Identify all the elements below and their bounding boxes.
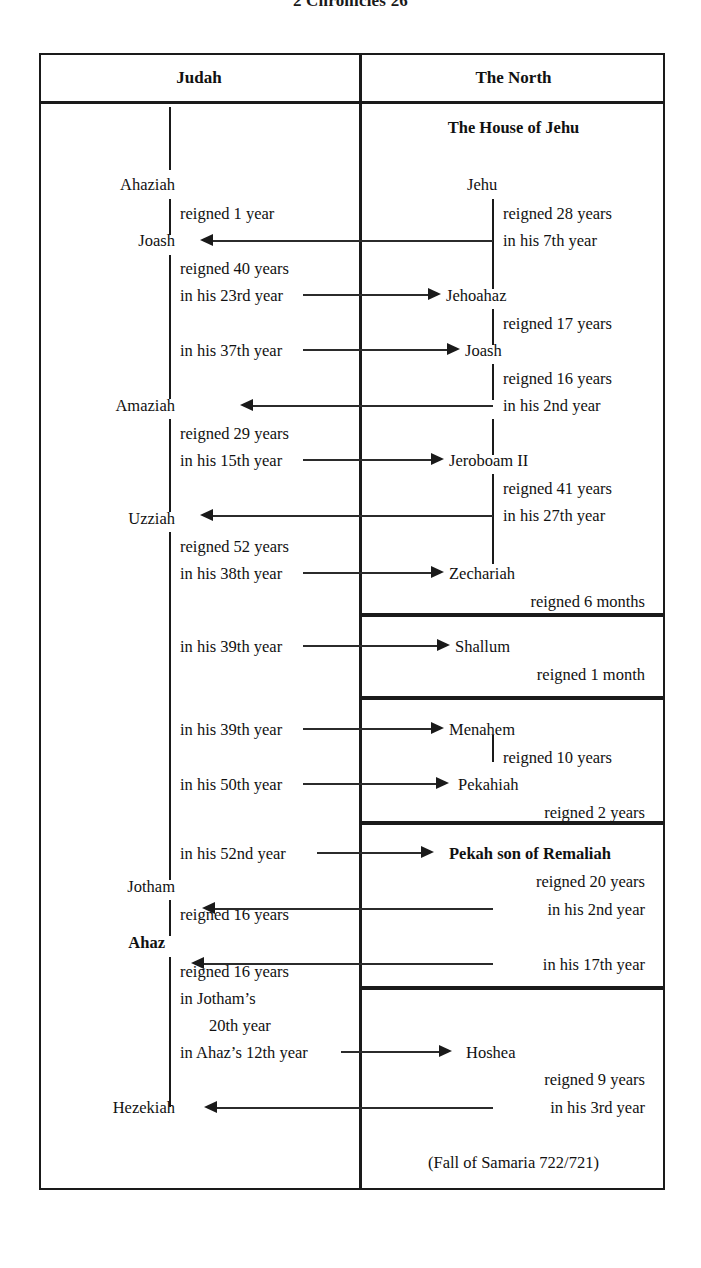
judah-uzziah-reign: reigned 52 years: [180, 537, 289, 556]
north-house-of-jehu-heading: The House of Jehu: [362, 118, 665, 137]
north-pekahiah-reign: reigned 2 years: [420, 803, 645, 822]
judah-king-joash: Joash: [55, 231, 175, 250]
connector-hoshea3-to-hezekiah: [217, 1107, 493, 1109]
fall-of-samaria-note: (Fall of Samaria 722/721): [362, 1153, 665, 1172]
judah-spine-jotham: [169, 900, 171, 936]
judah-uzziah-sync-38: in his 38th year: [180, 564, 282, 583]
connector-joash37-to-joash-north: [303, 349, 447, 351]
judah-king-amaziah: Amaziah: [35, 396, 175, 415]
arrowhead-left-uzziah: [200, 509, 213, 521]
north-joash-sync-2: in his 2nd year: [503, 396, 601, 415]
north-joash-reign: reigned 16 years: [503, 369, 612, 388]
north-section-separator-4: [359, 986, 665, 990]
judah-spine-ahaziah: [169, 199, 171, 235]
judah-ahaz-sync-12: in Ahaz’s 12th year: [180, 1043, 308, 1062]
judah-amaziah-reign: reigned 29 years: [180, 424, 289, 443]
arrowhead-right-joash-north: [447, 343, 460, 355]
arrowhead-left-hezekiah: [204, 1101, 217, 1113]
arrowhead-right-pekah: [421, 846, 434, 858]
judah-uzziah-sync-39a: in his 39th year: [180, 637, 282, 656]
north-section-separator-2: [359, 696, 665, 700]
north-section-separator-1: [359, 613, 665, 617]
arrowhead-right-hoshea: [439, 1045, 452, 1057]
north-king-jehoahaz: Jehoahaz: [446, 286, 506, 305]
north-king-joash: Joash: [465, 341, 502, 360]
connector-ahaz12-to-hoshea: [341, 1051, 439, 1053]
judah-ahaziah-reign: reigned 1 year: [180, 204, 274, 223]
connector-amaziah15-to-jeroboam: [303, 459, 431, 461]
judah-king-ahaziah: Ahaziah: [55, 175, 175, 194]
arrowhead-left-ahaz: [191, 957, 204, 969]
judah-king-ahaz: Ahaz: [55, 933, 165, 952]
judah-spine-joash: [169, 255, 171, 399]
north-king-jehu: Jehu: [467, 175, 497, 194]
arrowhead-left-joash: [200, 234, 213, 246]
north-spine-menahem: [492, 735, 494, 762]
column-header-north: The North: [362, 68, 665, 88]
north-spine-jehu: [492, 199, 494, 289]
north-king-pekah: Pekah son of Remaliah: [449, 844, 611, 863]
arrowhead-right-pekahiah: [436, 777, 449, 789]
north-king-jeroboam: Jeroboam II: [449, 451, 528, 470]
judah-uzziah-sync-39b: in his 39th year: [180, 720, 282, 739]
north-jehu-sync-7: in his 7th year: [503, 231, 597, 250]
north-pekah-reign: reigned 20 years: [420, 872, 645, 891]
arrowhead-left-jotham: [202, 902, 215, 914]
north-king-menahem: Menahem: [449, 720, 515, 739]
connector-uzziah50-to-pekahiah: [303, 783, 436, 785]
arrowhead-left-amaziah: [240, 399, 253, 411]
column-header-judah: Judah: [39, 68, 359, 88]
north-spine-jehoahaz: [492, 309, 494, 345]
connector-uzziah38-to-zechariah: [303, 572, 431, 574]
judah-ahaz-sync-jotham-a: in Jotham’s: [180, 989, 256, 1008]
connector-pekah2-to-jotham: [215, 908, 493, 910]
judah-joash-reign: reigned 40 years: [180, 259, 289, 278]
north-hoshea-reign: reigned 9 years: [420, 1070, 645, 1089]
header-rule: [39, 101, 665, 104]
north-king-zechariah: Zechariah: [449, 564, 515, 583]
north-jeroboam-sync-27: in his 27th year: [503, 506, 605, 525]
judah-uzziah-sync-52: in his 52nd year: [180, 844, 286, 863]
connector-joashnorth-to-amaziah: [253, 405, 493, 407]
judah-king-jotham: Jotham: [55, 877, 175, 896]
judah-amaziah-sync-15: in his 15th year: [180, 451, 282, 470]
arrowhead-right-jehoahaz: [428, 288, 441, 300]
judah-uzziah-sync-50: in his 50th year: [180, 775, 282, 794]
judah-spine-uzziah: [169, 532, 171, 880]
connector-uzziah39b-to-menahem: [303, 728, 431, 730]
arrowhead-right-jeroboam: [431, 453, 444, 465]
connector-jehu-to-joash: [213, 240, 493, 242]
column-divider: [359, 53, 362, 1190]
arrowhead-right-shallum: [437, 639, 450, 651]
north-spine-jeroboam: [492, 474, 494, 564]
north-jehu-reign: reigned 28 years: [503, 204, 612, 223]
arrowhead-right-menahem: [431, 722, 444, 734]
north-jeroboam-reign: reigned 41 years: [503, 479, 612, 498]
north-jehoahaz-reign: reigned 17 years: [503, 314, 612, 333]
judah-joash-sync-23: in his 23rd year: [180, 286, 283, 305]
judah-king-hezekiah: Hezekiah: [35, 1098, 175, 1117]
connector-uzziah52-to-pekah: [317, 852, 421, 854]
north-king-shallum: Shallum: [455, 637, 510, 656]
judah-ahaz-sync-jotham-b: 20th year: [209, 1016, 271, 1035]
connector-pekah17-to-ahaz: [204, 963, 493, 965]
connector-jeroboam-to-uzziah: [213, 515, 493, 517]
north-spine-amaziah-link: [492, 419, 494, 455]
north-king-hoshea: Hoshea: [466, 1043, 515, 1062]
judah-king-uzziah: Uzziah: [55, 509, 175, 528]
north-shallum-reign: reigned 1 month: [420, 665, 645, 684]
arrowhead-right-zechariah: [431, 566, 444, 578]
judah-spine-ahaz: [169, 957, 171, 1107]
page-title: 2 Chronicles 26: [0, 0, 701, 11]
judah-spine-amaziah: [169, 419, 171, 512]
north-spine-joash: [492, 364, 494, 400]
synchronism-chart-frame: [39, 53, 665, 1190]
connector-joash23-to-jehoahaz: [303, 294, 428, 296]
connector-uzziah39-to-shallum: [303, 645, 437, 647]
judah-spine-pre-ahaziah: [169, 107, 171, 170]
north-menahem-reign: reigned 10 years: [503, 748, 612, 767]
north-zechariah-reign: reigned 6 months: [420, 592, 645, 611]
north-king-pekahiah: Pekahiah: [458, 775, 518, 794]
judah-joash-sync-37: in his 37th year: [180, 341, 282, 360]
